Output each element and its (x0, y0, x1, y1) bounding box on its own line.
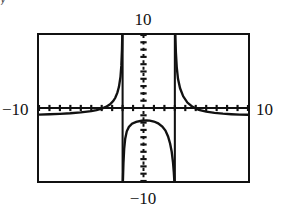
y-axis-min-label: −10 (0, 190, 286, 207)
y-axis-max-label: 10 (0, 11, 286, 28)
curve-branch-right (175, 35, 248, 115)
calculator-screen (37, 33, 250, 183)
x-axis-max-label: 10 (256, 101, 273, 118)
clipped-text-above-figure: y (0, 0, 286, 5)
graph-canvas (39, 35, 248, 181)
curve-branch-left (39, 35, 122, 115)
x-axis-min-label: −10 (2, 101, 29, 118)
figure-root: y 10 −10 10 −10 (0, 0, 286, 216)
curve-branch-middle (123, 120, 174, 181)
